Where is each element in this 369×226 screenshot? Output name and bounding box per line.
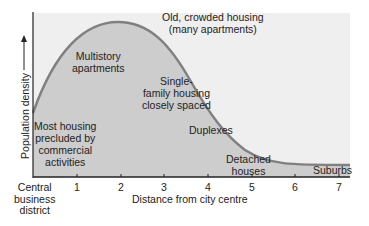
- x-tick: 6: [292, 181, 298, 193]
- label-multistory: Multistoryapartments: [72, 50, 125, 74]
- label-old-crowded: Old, crowded housing(many apartments): [162, 11, 264, 35]
- label-suburbs: Suburbs: [313, 164, 352, 176]
- y-axis-label: Population density: [19, 61, 31, 171]
- origin-label: Centralbusinessdistrict: [14, 182, 55, 217]
- label-single-family: Single-family housingclosely spaced: [142, 75, 211, 111]
- x-tick: 4: [205, 181, 211, 193]
- label-most-housing: Most housingprecluded bycommercialactivi…: [34, 120, 96, 168]
- label-duplexes: Duplexes: [189, 124, 233, 136]
- x-tick: 1: [74, 181, 80, 193]
- label-detached: Detachedhouses: [226, 153, 271, 177]
- x-tick: 3: [161, 181, 167, 193]
- x-tick: 2: [118, 181, 124, 193]
- x-axis-label: Distance from city centre: [132, 193, 248, 205]
- x-tick: 7: [336, 181, 342, 193]
- x-tick: 5: [249, 181, 255, 193]
